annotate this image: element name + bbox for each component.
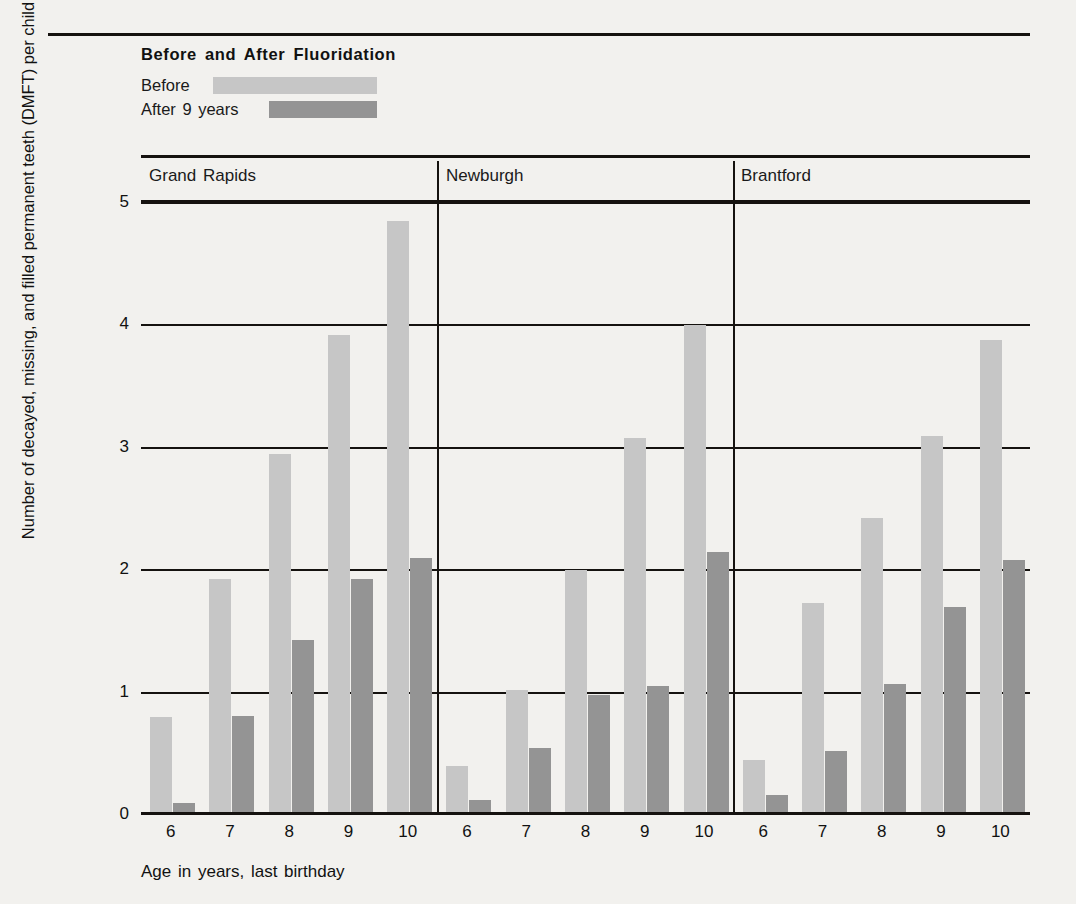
bar-newburgh-age-9-after <box>647 686 669 815</box>
bar-brantford-age-10-after <box>1003 560 1025 815</box>
legend-label-before: Before <box>141 76 213 95</box>
bar-brantford-age-9-after <box>944 607 966 815</box>
bar-grand-rapids-age-10-after <box>410 558 432 815</box>
legend-swatch-before <box>213 77 377 94</box>
plot-area: 012345 <box>141 203 1030 815</box>
legend-item-before: Before <box>141 75 561 96</box>
y-tick-label-3: 3 <box>97 437 129 457</box>
bar-grand-rapids-age-10-before <box>387 221 409 815</box>
x-tick-labels-group: 678910678910678910 <box>141 822 1030 848</box>
y-tick-label-2: 2 <box>97 559 129 579</box>
chart-title: Before and After Fluoridation <box>141 45 561 64</box>
x-tick-label-newburgh-7: 7 <box>497 822 556 842</box>
x-tick-label-brantford-7: 7 <box>793 822 852 842</box>
legend-swatch-after <box>269 101 377 118</box>
y-tick-label-5: 5 <box>97 192 129 212</box>
legend-item-after: After 9 years <box>141 99 561 120</box>
gridline-5 <box>141 202 1030 204</box>
bar-brantford-age-7-after <box>825 751 847 815</box>
bar-newburgh-age-9-before <box>624 438 646 815</box>
x-tick-label-brantford-6: 6 <box>734 822 793 842</box>
bar-brantford-age-7-before <box>802 603 824 815</box>
bar-newburgh-age-10-after <box>707 552 729 815</box>
legend-rule-divider <box>141 155 1030 158</box>
bar-brantford-age-10-before <box>980 340 1002 815</box>
x-tick-label-grand-rapids-8: 8 <box>260 822 319 842</box>
x-tick-label-grand-rapids-9: 9 <box>319 822 378 842</box>
bar-brantford-age-6-before <box>743 760 765 815</box>
group-divider-2 <box>733 161 735 815</box>
group-header-newburgh: Newburgh <box>446 166 524 186</box>
bar-newburgh-age-6-before <box>446 766 468 815</box>
x-tick-label-newburgh-6: 6 <box>437 822 496 842</box>
x-tick-label-newburgh-8: 8 <box>556 822 615 842</box>
legend-label-after: After 9 years <box>141 100 269 119</box>
y-tick-label-4: 4 <box>97 314 129 334</box>
x-tick-label-grand-rapids-7: 7 <box>200 822 259 842</box>
fluoridation-bar-chart-figure: Before and After Fluoridation Before Aft… <box>0 0 1076 904</box>
bar-newburgh-age-8-before <box>565 570 587 815</box>
x-tick-label-brantford-10: 10 <box>971 822 1030 842</box>
bar-grand-rapids-age-8-after <box>292 640 314 815</box>
y-tick-label-0: 0 <box>97 804 129 824</box>
x-tick-label-grand-rapids-10: 10 <box>378 822 437 842</box>
top-rule-divider <box>48 33 1030 36</box>
x-axis-label: Age in years, last birthday <box>141 862 345 882</box>
group-header-grand-rapids: Grand Rapids <box>149 166 256 186</box>
x-axis-baseline <box>141 812 1030 815</box>
bar-grand-rapids-age-6-before <box>150 717 172 815</box>
x-tick-label-newburgh-10: 10 <box>674 822 733 842</box>
x-tick-label-brantford-8: 8 <box>852 822 911 842</box>
y-tick-label-1: 1 <box>97 682 129 702</box>
bar-grand-rapids-age-8-before <box>269 454 291 815</box>
group-header-brantford: Brantford <box>741 166 811 186</box>
bar-newburgh-age-7-after <box>529 748 551 815</box>
bar-brantford-age-8-before <box>861 518 883 815</box>
bar-brantford-age-9-before <box>921 436 943 815</box>
group-divider-1 <box>437 161 439 815</box>
gridline-4 <box>141 324 1030 326</box>
bar-newburgh-age-7-before <box>506 690 528 815</box>
bar-grand-rapids-age-9-before <box>328 335 350 815</box>
bar-brantford-age-8-after <box>884 684 906 815</box>
x-tick-label-grand-rapids-6: 6 <box>141 822 200 842</box>
y-axis-label: Number of decayed, missing, and filled p… <box>16 0 41 551</box>
chart-header-block: Before and After Fluoridation Before Aft… <box>141 45 561 123</box>
group-header-row: Grand Rapids Newburgh Brantford <box>141 162 1030 200</box>
bar-grand-rapids-age-7-before <box>209 579 231 815</box>
gridline-3 <box>141 447 1030 449</box>
x-tick-label-newburgh-9: 9 <box>615 822 674 842</box>
bar-grand-rapids-age-7-after <box>232 716 254 815</box>
bar-newburgh-age-8-after <box>588 695 610 815</box>
x-tick-label-brantford-9: 9 <box>911 822 970 842</box>
bar-grand-rapids-age-9-after <box>351 579 373 815</box>
bar-newburgh-age-10-before <box>684 325 706 815</box>
